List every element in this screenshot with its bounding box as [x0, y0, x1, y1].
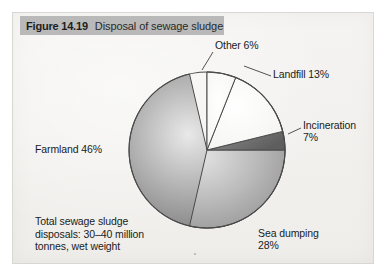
pie-slice-sea-dumping	[190, 150, 286, 228]
pie-label-incineration: Incineration 7%	[303, 120, 356, 143]
figure-root: Figure 14.19 Disposal of sewage sludge	[0, 0, 384, 276]
figure-note: Total sewage sludge disposals: 30–40 mil…	[35, 215, 144, 253]
scan-speck	[194, 253, 196, 255]
figure-title-banner: Figure 14.19 Disposal of sewage sludge	[20, 16, 224, 35]
pie-label-landfill: Landfill 13%	[273, 69, 329, 81]
leader-line-landfill	[244, 66, 271, 76]
pie-label-other: Other 6%	[215, 40, 259, 52]
page-title: Disposal of sewage sludge	[95, 20, 223, 32]
pie-label-sea-dumping: Sea dumping 28%	[258, 228, 319, 251]
leader-line-incineration	[288, 128, 301, 134]
pie-label-farmland: Farmland 46%	[35, 144, 102, 156]
figure-number: Figure 14.19	[26, 20, 88, 32]
leader-line-other	[202, 52, 213, 70]
